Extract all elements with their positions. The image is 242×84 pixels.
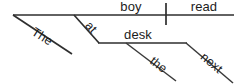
word-label-prep-object: desk [124, 27, 152, 42]
word-label-verb: read [191, 0, 217, 14]
sentence-diagram-canvas: boy read The at desk the next [0, 0, 242, 84]
word-label-prep-object-article: the [147, 54, 170, 76]
word-label-preposition: at [82, 19, 100, 37]
sentence-diagram-container: boy read The at desk the next [0, 0, 242, 84]
word-label-subject: boy [120, 0, 142, 14]
